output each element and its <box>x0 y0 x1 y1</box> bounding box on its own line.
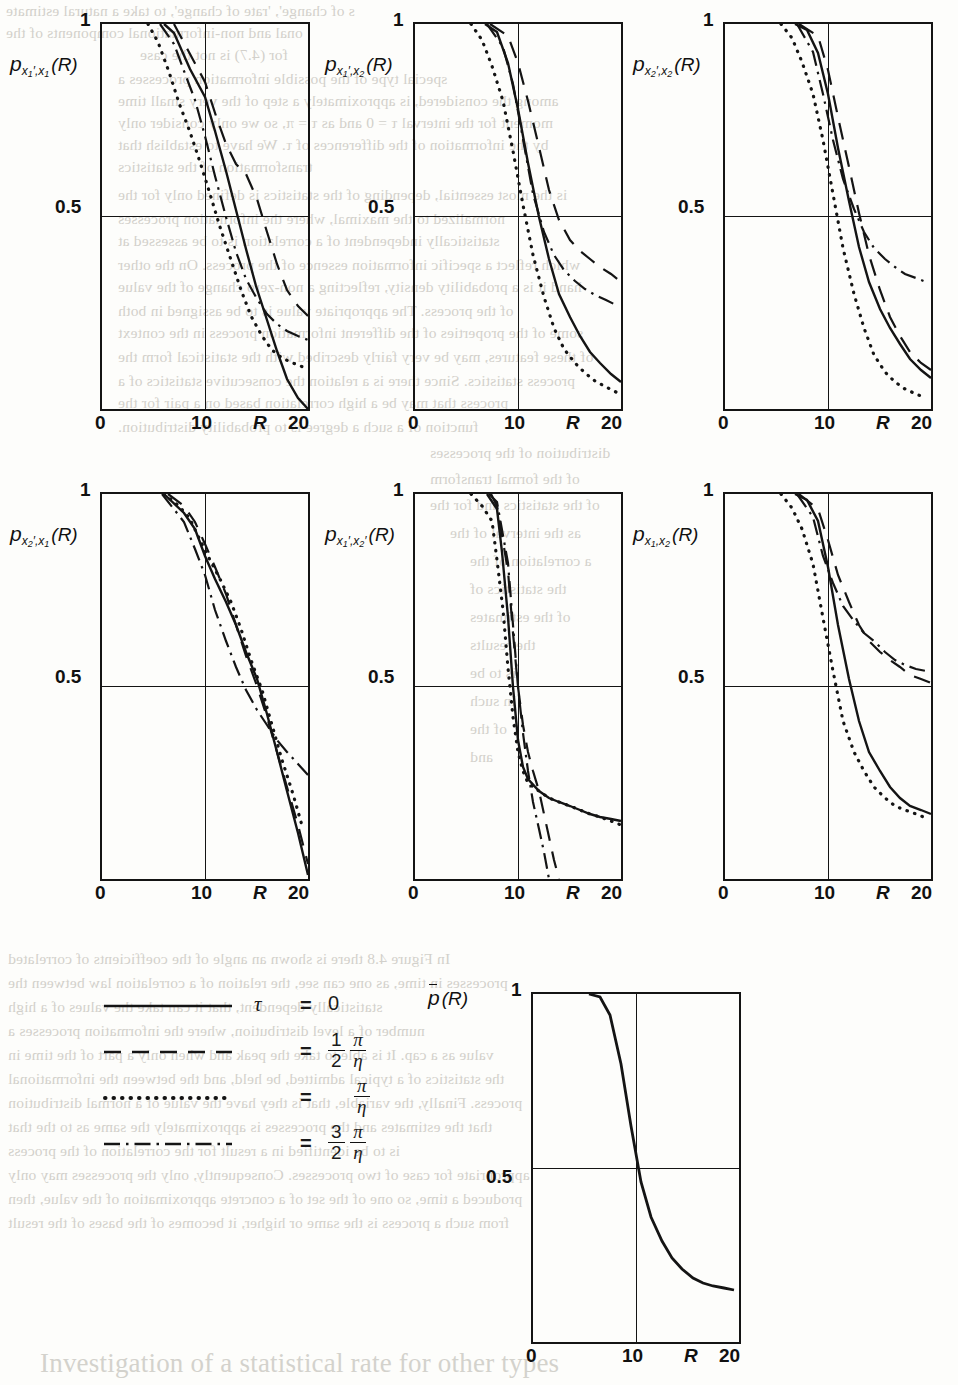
legend-value-3: 3 2 π η <box>328 1122 366 1163</box>
curve-dashed <box>174 24 308 316</box>
legend-equals-1: = <box>300 1040 312 1063</box>
legend-sample-dash-dotted <box>104 1140 232 1148</box>
x-tick-10: 10 <box>504 882 525 904</box>
plot-area <box>723 492 933 881</box>
chart-p-x1prime-x2: px1′,x2(R) 1 0.5 0 10 R 20 <box>320 0 630 440</box>
x-axis-symbol: R <box>876 412 890 434</box>
chart-p-x2prime-x1: px2′,x1(R) 1 0.5 0 10 R 20 <box>0 470 320 910</box>
legend-frac-eta-den: η <box>350 1050 366 1071</box>
legend-sample-solid <box>104 1002 232 1010</box>
x-axis-symbol: R <box>684 1345 698 1367</box>
x-axis-symbol: R <box>566 412 580 434</box>
plot-area <box>531 992 741 1344</box>
x-axis-symbol: R <box>253 882 267 904</box>
x-tick-10: 10 <box>814 882 835 904</box>
curve-dash-dotted <box>162 494 308 775</box>
x-tick-0: 0 <box>526 1345 537 1367</box>
y-tick-1: 1 <box>703 479 714 501</box>
chart-p-x1prime-x1: px1′,x1(R) 1 0.5 0 10 R 20 <box>0 0 320 440</box>
curve-solid <box>164 494 308 875</box>
gridline-x-10 <box>518 24 519 409</box>
plot-area <box>723 22 933 411</box>
legend-frac-pi-eta-2: π η <box>354 1076 370 1117</box>
curve-dotted <box>148 24 303 367</box>
legend-frac-pi-eta: π η <box>350 1030 366 1071</box>
y-tick-1: 1 <box>703 9 714 31</box>
legend-equals-0: = <box>300 994 312 1017</box>
legend-equals-2: = <box>300 1086 312 1109</box>
chart-title-p-x1prime-x1: px1′,x1(R) <box>10 52 78 79</box>
x-tick-0: 0 <box>95 412 106 434</box>
legend-frac-pi-num-2: π <box>354 1076 370 1096</box>
curve-dashed <box>799 24 931 370</box>
legend-sample-dotted <box>104 1094 232 1102</box>
chart-title-p-x1prime-x2prime: px1′,x2′(R) <box>325 522 395 549</box>
chart-title-p-x1prime-x2: px1′,x2(R) <box>325 52 393 79</box>
x-axis-symbol: R <box>566 882 580 904</box>
y-tick-05: 0.5 <box>678 196 704 218</box>
x-tick-0: 0 <box>718 882 729 904</box>
legend-frac-half: 1 2 <box>328 1030 345 1071</box>
x-tick-20: 20 <box>719 1345 740 1367</box>
curve-dotted <box>471 24 616 392</box>
gridline-x-10 <box>828 24 829 409</box>
legend-frac-half-den: 2 <box>328 1050 345 1071</box>
curve-dotted <box>471 494 621 825</box>
plot-area <box>100 22 310 411</box>
x-tick-0: 0 <box>408 882 419 904</box>
legend-frac-pi-num: π <box>350 1030 366 1050</box>
x-tick-10: 10 <box>504 412 525 434</box>
legend-equals-3: = <box>300 1132 312 1155</box>
legend-value-1: 1 2 π η <box>328 1030 366 1071</box>
curve-dash-dotted <box>797 24 926 282</box>
legend-frac-pi-eta-3: π η <box>350 1122 366 1163</box>
y-tick-05: 0.5 <box>368 666 394 688</box>
legend: τ = 0 = 1 2 π η = π η <box>104 988 404 1172</box>
gridline-x-10 <box>205 24 206 409</box>
x-tick-20: 20 <box>911 882 932 904</box>
x-tick-10: 10 <box>814 412 835 434</box>
y-tick-1: 1 <box>393 479 404 501</box>
plot-area <box>413 22 623 411</box>
curve-solid <box>795 494 931 814</box>
y-tick-05: 0.5 <box>368 196 394 218</box>
y-tick-05: 0.5 <box>486 1166 512 1188</box>
curve-dashed <box>490 24 621 282</box>
x-tick-20: 20 <box>911 412 932 434</box>
x-tick-20: 20 <box>601 412 622 434</box>
x-tick-10: 10 <box>622 1345 643 1367</box>
chart-p-x1prime-x2prime: px1′,x2′(R) 1 0.5 0 10 R 20 <box>320 470 630 910</box>
chart-title-p-x2prime-x2: px2′,x2(R) <box>633 52 701 79</box>
gridline-x-10 <box>518 494 519 879</box>
plot-area <box>100 492 310 881</box>
chart-title-p-x1-x2: px1,x2(R) <box>633 522 698 549</box>
ghost-text-line: distribution of the processes <box>430 444 610 462</box>
x-axis-symbol: R <box>253 412 267 434</box>
chart-title-p-bar: p(R) <box>428 986 468 1010</box>
legend-item-dashed: = 1 2 π η <box>104 1034 404 1080</box>
legend-frac-eta-den-2: η <box>354 1096 370 1117</box>
legend-frac-threehalf: 3 2 <box>328 1122 345 1163</box>
legend-value-2: π η <box>354 1076 370 1117</box>
legend-sample-dashed <box>104 1048 232 1056</box>
y-tick-05: 0.5 <box>678 666 704 688</box>
legend-tau-symbol: τ <box>254 992 262 1017</box>
legend-frac-half-num: 1 <box>328 1030 345 1050</box>
chart-p-x2prime-x2: px2′,x2(R) 1 0.5 0 10 R 20 <box>625 0 958 440</box>
legend-frac-pi-num-3: π <box>350 1122 366 1142</box>
x-tick-10: 10 <box>191 412 212 434</box>
legend-frac-eta-den-3: η <box>350 1142 366 1163</box>
curve-solid <box>487 494 621 821</box>
curve-dotted <box>781 494 926 818</box>
x-tick-10: 10 <box>191 882 212 904</box>
chart-title-p-x2prime-x1: px2′,x1(R) <box>10 522 78 549</box>
p-bar-symbol: p <box>428 986 440 1009</box>
y-tick-05: 0.5 <box>55 196 81 218</box>
x-tick-20: 20 <box>288 882 309 904</box>
x-tick-0: 0 <box>408 412 419 434</box>
y-tick-1: 1 <box>511 979 522 1001</box>
curve-solid <box>485 24 621 382</box>
curve-solid <box>589 994 734 1290</box>
legend-frac-threehalf-num: 3 <box>328 1122 345 1142</box>
ghost-text-line: In Figure 4.8 there is shown an angle of… <box>8 950 450 968</box>
